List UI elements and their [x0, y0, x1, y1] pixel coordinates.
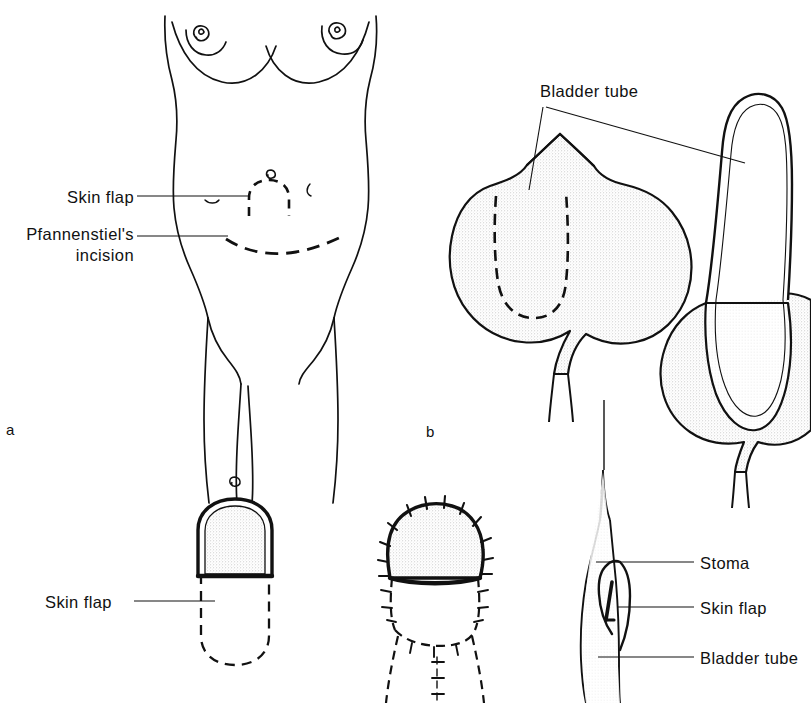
panel-letter-b: b [426, 423, 434, 440]
skin-flap-dashed-d [386, 578, 484, 703]
suture-marks-d [381, 590, 488, 703]
panel-b-bladder-outline [450, 134, 692, 422]
label-stoma-panel-e: Stoma [700, 553, 750, 574]
label-pfannenstiel-incision: Pfannenstiel's incision [2, 224, 134, 266]
label-bladder-tube-panel-e: Bladder tube [700, 648, 798, 669]
panel-d-sutured-stoma [378, 496, 493, 583]
pfannenstiel-line-1: Pfannenstiel's [26, 225, 134, 243]
surgical-figure: Skin flap Pfannenstiel's incision Bladde… [0, 0, 811, 703]
skin-flap-dashed-c [201, 574, 269, 665]
panel-c-stoma-dome [198, 477, 272, 576]
label-skin-flap-panel-e: Skin flap [700, 598, 767, 619]
pfannenstiel-line-2: incision [76, 246, 134, 264]
panel-letter-a: a [6, 421, 14, 438]
label-skin-flap-panel-c: Skin flap [45, 592, 112, 613]
panel-a-torso [165, 16, 377, 503]
figure-artwork [0, 0, 811, 703]
pfannenstiel-incision-line [226, 238, 339, 254]
label-bladder-tube-panel-b: Bladder tube [540, 81, 638, 102]
leader-lines-panel-a [137, 196, 249, 236]
skin-flap-marker-a [249, 180, 289, 216]
label-skin-flap-panel-a: Skin flap [44, 187, 134, 208]
